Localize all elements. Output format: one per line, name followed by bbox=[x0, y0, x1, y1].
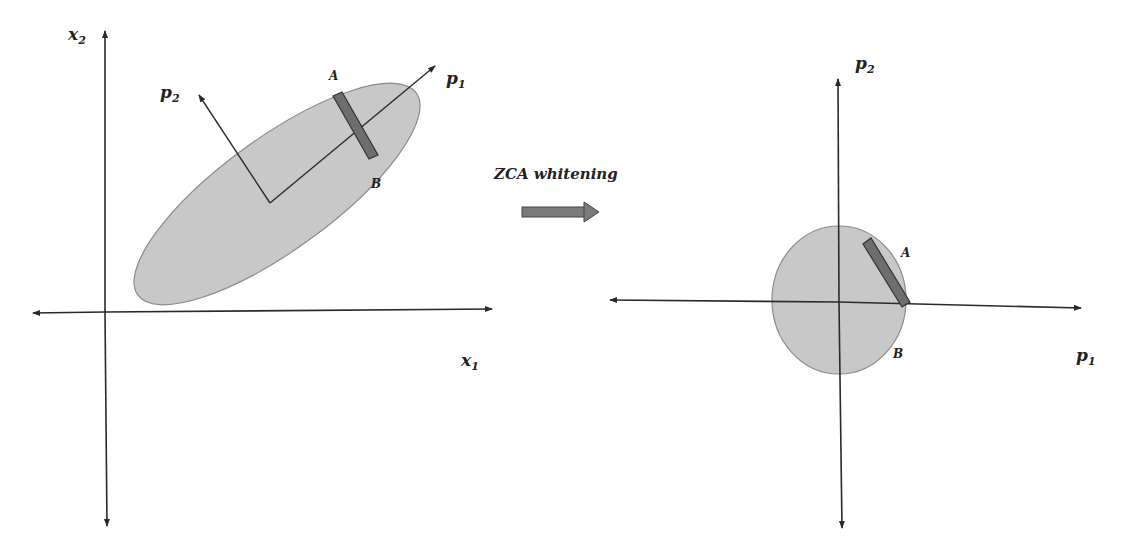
x1-axis bbox=[105, 309, 492, 312]
x1-axis-neg bbox=[33, 312, 105, 313]
right-arrow-icon bbox=[522, 202, 599, 222]
p1-axis-label: p1 bbox=[1076, 345, 1096, 368]
transform-label: ZCA whitening bbox=[493, 165, 618, 183]
p2-label: p2 bbox=[160, 82, 180, 105]
x1-axis-label: x1 bbox=[460, 350, 479, 373]
transform-indicator: ZCA whitening bbox=[493, 165, 618, 222]
point-b-label-right: B bbox=[892, 347, 903, 361]
zca-whitening-diagram: x2 x1 p1 p2 A B ZCA whitening bbox=[0, 0, 1122, 555]
left-panel: x2 x1 p1 p2 A B bbox=[33, 24, 492, 526]
p2-axis-right bbox=[838, 79, 839, 302]
point-a-label-right: A bbox=[900, 246, 910, 260]
p1-label: p1 bbox=[446, 68, 466, 91]
point-a-label: A bbox=[328, 69, 338, 83]
right-panel: p2 p1 A B bbox=[610, 53, 1096, 528]
data-ellipse bbox=[105, 48, 449, 341]
x2-axis-neg bbox=[105, 312, 107, 526]
x2-axis-label: x2 bbox=[67, 24, 86, 47]
point-b-label: B bbox=[370, 177, 381, 191]
p2-axis-label: p2 bbox=[855, 53, 875, 76]
